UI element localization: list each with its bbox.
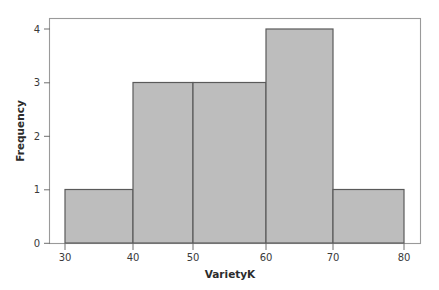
histogram-bar (65, 190, 133, 244)
y-tick-label: 4 (34, 24, 40, 35)
y-tick-label: 1 (34, 184, 40, 195)
x-tick-label: 50 (187, 252, 200, 263)
y-tick-label: 0 (34, 238, 40, 249)
x-tick-label: 60 (260, 252, 273, 263)
x-tick-label: 80 (398, 252, 411, 263)
x-tick-label: 30 (59, 252, 72, 263)
y-axis-title: Frequency (14, 100, 26, 162)
histogram-bar (333, 190, 404, 244)
histogram-chart: 4 3 2 1 0 30 40 50 60 70 80 VarietyK Fre… (0, 0, 439, 290)
x-axis-title: VarietyK (205, 268, 256, 280)
chart-svg: 4 3 2 1 0 30 40 50 60 70 80 VarietyK Fre… (0, 0, 439, 290)
y-tick-label: 2 (34, 131, 40, 142)
histogram-bar (133, 83, 193, 244)
x-tick-label: 70 (327, 252, 340, 263)
x-tick-label: 40 (127, 252, 140, 263)
histogram-bar (193, 83, 266, 244)
y-tick-label: 3 (34, 77, 40, 88)
histogram-bar (266, 29, 333, 243)
